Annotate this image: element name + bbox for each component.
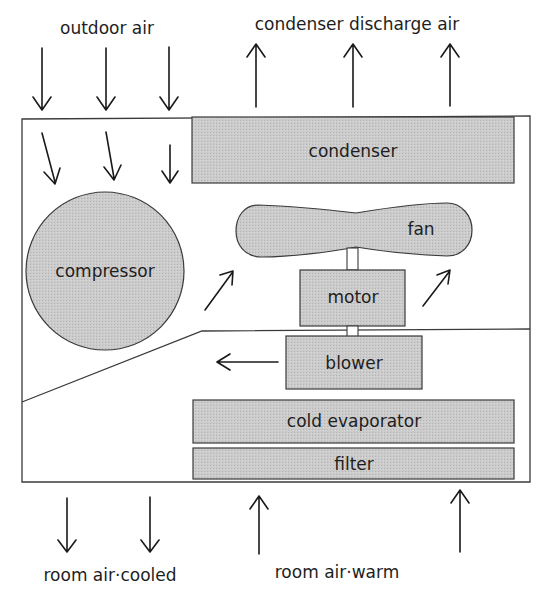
- down-arrow-icon: [162, 145, 178, 183]
- intake-arrows: [42, 132, 178, 184]
- motor: motor: [300, 270, 405, 326]
- up-arrow-icon: [247, 44, 265, 107]
- down-arrow-icon: [104, 132, 121, 180]
- condenser-discharge-air-label: condenser discharge air: [255, 14, 460, 34]
- blower-shaft: [347, 326, 358, 337]
- filter-label: filter: [334, 454, 374, 474]
- condenser-discharge-arrows: [247, 44, 459, 107]
- blower-label: blower: [325, 353, 382, 373]
- diagonal-arrow-icon: [423, 270, 450, 306]
- outdoor-air-arrows: [33, 47, 178, 110]
- outdoor-air-label: outdoor air: [60, 18, 154, 38]
- condenser: condenser: [192, 117, 514, 183]
- compressor: compressor: [26, 192, 184, 350]
- up-arrow-icon: [441, 44, 459, 106]
- compressor-label: compressor: [55, 261, 154, 281]
- up-arrow-icon: [451, 490, 469, 552]
- cold-evaporator: cold evaporator: [193, 400, 514, 443]
- blower: blower: [286, 336, 422, 389]
- down-arrow-icon: [97, 48, 115, 110]
- down-arrow-icon: [42, 133, 60, 184]
- fan-label: fan: [407, 219, 434, 239]
- left-arrow-icon: [217, 354, 278, 370]
- up-arrow-icon: [250, 496, 268, 554]
- room-air-warm-arrows: [250, 490, 469, 554]
- fan-shaft: [347, 248, 358, 270]
- motor-label: motor: [327, 287, 378, 307]
- air-conditioner-diagram: outdoor air condenser discharge air: [0, 0, 550, 597]
- diagonal-arrow-icon: [205, 271, 233, 310]
- room-air-cooled-label: room air·cooled: [43, 565, 176, 585]
- up-arrow-icon: [344, 44, 362, 107]
- cold-evaporator-label: cold evaporator: [287, 411, 421, 431]
- condenser-label: condenser: [309, 141, 398, 161]
- filter: filter: [193, 448, 514, 479]
- room-air-cooled-arrows: [58, 497, 159, 552]
- room-air-warm-label: room air·warm: [275, 562, 400, 582]
- down-arrow-icon: [33, 48, 51, 110]
- down-arrow-icon: [160, 47, 178, 110]
- down-arrow-icon: [58, 498, 76, 552]
- down-arrow-icon: [141, 497, 159, 552]
